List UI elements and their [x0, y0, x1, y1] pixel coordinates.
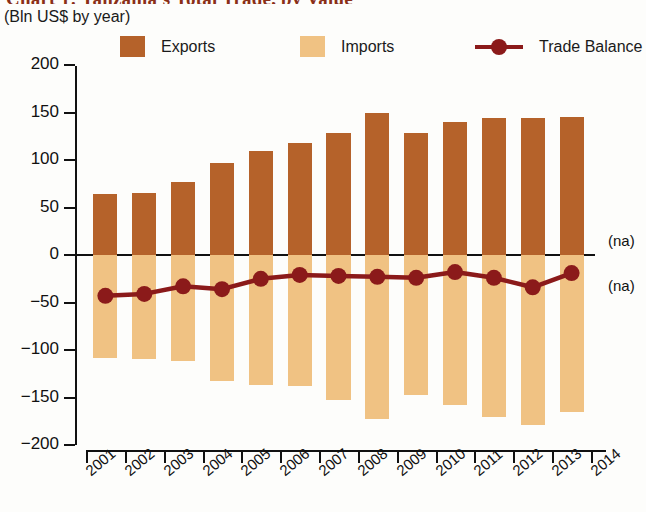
trade-balance-point-2001 [97, 288, 113, 304]
y-tick-label: −100 [21, 339, 59, 359]
y-tick--100 [64, 349, 75, 351]
legend-swatch-exports [120, 36, 145, 57]
legend-item-exports: Exports [120, 36, 215, 57]
trade-balance-point-2005 [253, 271, 269, 287]
trade-balance-point-2002 [136, 286, 152, 302]
legend-label-imports: Imports [341, 38, 394, 56]
y-tick--150 [64, 397, 75, 399]
trade-balance-point-2009 [408, 270, 424, 286]
y-tick--50 [64, 302, 75, 304]
y-tick-label: −150 [21, 387, 59, 407]
trade-balance-point-2010 [447, 264, 463, 280]
trade-balance-point-2003 [175, 278, 191, 294]
y-tick-label: 0 [50, 244, 59, 264]
y-tick-200 [64, 64, 75, 66]
y-tick-50 [64, 207, 75, 209]
chart-legend: Exports Imports Trade Balance [120, 36, 640, 60]
y-tick--200 [64, 444, 75, 446]
chart-title: Chart 1: Tanzania's Total Trade, by Valu… [6, 0, 353, 4]
y-tick-label: −50 [30, 292, 59, 312]
chart-figure: Chart 1: Tanzania's Total Trade, by Valu… [0, 0, 646, 512]
legend-line-marker-icon [475, 36, 523, 57]
y-tick-label: −200 [21, 434, 59, 454]
trade-balance-point-2008 [369, 269, 385, 285]
y-tick-label: 100 [31, 149, 59, 169]
legend-label-exports: Exports [161, 38, 215, 56]
trade-balance-point-2006 [292, 267, 308, 283]
annotation-na-lower: (na) [608, 277, 635, 294]
legend-swatch-imports [300, 36, 325, 57]
y-tick-0 [64, 254, 75, 256]
annotation-na-upper: (na) [608, 232, 635, 249]
y-tick-label: 200 [31, 54, 59, 74]
trade-balance-point-2004 [214, 281, 230, 297]
trade-balance-point-2011 [486, 270, 502, 286]
y-tick-label: 150 [31, 102, 59, 122]
y-tick-label: 50 [40, 197, 59, 217]
plot-area: 200150100500−50−100−150−200 200120022003… [75, 60, 595, 450]
y-tick-100 [64, 159, 75, 161]
legend-label-trade-balance: Trade Balance [539, 38, 642, 56]
trade-balance-point-2012 [525, 279, 541, 295]
trade-balance-point-2007 [331, 268, 347, 284]
legend-item-trade-balance: Trade Balance [475, 36, 642, 57]
trade-balance-line-series [75, 60, 595, 450]
legend-item-imports: Imports [300, 36, 394, 57]
y-tick-150 [64, 112, 75, 114]
trade-balance-point-2013 [564, 265, 580, 281]
chart-subtitle: (Bln US$ by year) [4, 8, 130, 26]
